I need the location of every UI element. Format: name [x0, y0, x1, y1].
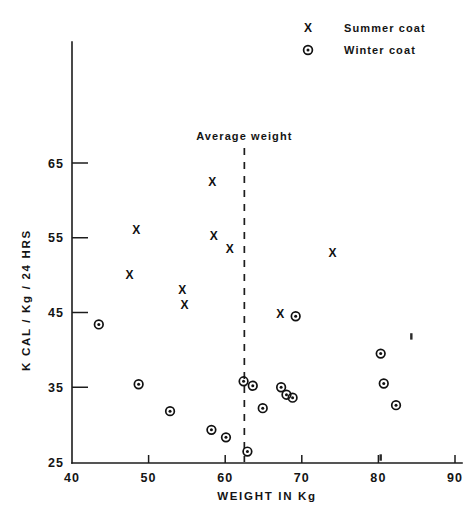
y-axis-title: K CAL / Kg / 24 HRS: [20, 229, 32, 371]
data-point-summer-5: X: [210, 229, 218, 243]
data-point-winter-13: [376, 349, 385, 358]
data-point-winter-8: [243, 447, 252, 456]
data-point-winter-3: [207, 426, 216, 435]
x-tick-label-50: 50: [141, 471, 157, 485]
data-point-winter-4: [222, 433, 231, 442]
scatter-chart: 2535455565 405060708090 Average weight X…: [0, 0, 474, 519]
data-point-summer-1: X: [125, 268, 133, 282]
y-axis-ticks: [72, 163, 88, 387]
x-tick-label-80: 80: [370, 471, 386, 485]
data-point-winter-1: [134, 380, 143, 389]
data-point-summer-4: X: [208, 175, 216, 189]
series-summer-coat: XXXXXXXXX: [125, 175, 336, 321]
x-axis-ticks: [149, 455, 455, 463]
series-winter-coat: [95, 312, 401, 456]
average-weight-label: Average weight: [196, 130, 292, 142]
x-axis-title: WEIGHT IN Kg: [217, 490, 317, 502]
y-tick-label-55: 55: [48, 231, 64, 245]
data-point-winter-12: [291, 312, 300, 321]
plot-surface: 2535455565 405060708090 Average weight X…: [0, 0, 474, 519]
y-axis-tick-labels: 2535455565: [48, 157, 64, 470]
data-point-winter-15: [392, 401, 401, 410]
data-point-winter-6: [248, 381, 257, 390]
data-point-winter-7: [258, 404, 267, 413]
data-point-summer-7: X: [276, 307, 284, 321]
x-axis-tick-labels: 405060708090: [64, 471, 463, 485]
y-tick-label-35: 35: [48, 381, 64, 395]
y-tick-label-25: 25: [48, 456, 64, 470]
legend: X Summer coat Winter coat: [304, 21, 426, 56]
scan-speck-0: [410, 333, 412, 339]
data-point-summer-6: X: [226, 242, 234, 256]
data-point-summer-2: X: [178, 283, 186, 297]
data-point-winter-14: [379, 379, 388, 388]
legend-winter-label: Winter coat: [344, 44, 416, 56]
legend-summer-marker-icon: X: [304, 21, 312, 35]
x-tick-label-60: 60: [217, 471, 233, 485]
legend-summer-label: Summer coat: [344, 22, 426, 34]
data-point-winter-2: [166, 407, 175, 416]
x-tick-label-90: 90: [447, 471, 463, 485]
data-point-summer-3: X: [181, 298, 189, 312]
x-tick-label-70: 70: [294, 471, 310, 485]
data-point-summer-0: X: [132, 223, 140, 237]
data-point-winter-0: [95, 320, 104, 329]
data-point-summer-8: X: [328, 246, 336, 260]
legend-winter-marker-icon: [304, 46, 313, 55]
y-tick-label-65: 65: [48, 157, 64, 171]
y-tick-label-45: 45: [48, 306, 64, 320]
x-tick-label-40: 40: [64, 471, 80, 485]
scan-speck-1: [379, 454, 381, 460]
